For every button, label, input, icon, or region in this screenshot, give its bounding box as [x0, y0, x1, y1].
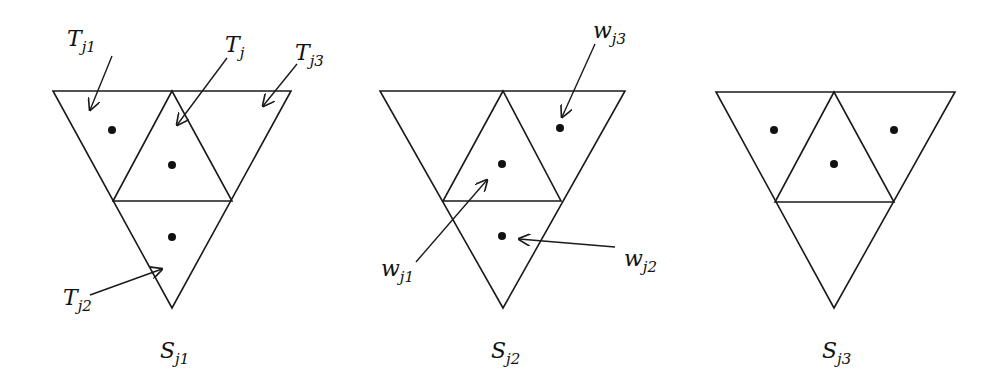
panel-s-j3: Sj3: [716, 92, 955, 368]
outer-triangle: [716, 92, 955, 308]
arrow-tj2: [90, 269, 162, 295]
dot-tj: [168, 161, 176, 169]
caption-s-j1: Sj1: [160, 338, 189, 368]
label-wj3: wj3: [593, 18, 626, 48]
dot-center: [498, 160, 506, 168]
label-tj: Tj: [225, 32, 245, 62]
label-tj3: Tj3: [295, 40, 324, 70]
inner-triangle: [443, 91, 561, 201]
arrow-wj2: [519, 239, 615, 247]
dot-center: [830, 160, 838, 168]
label-wj1: wj1: [381, 256, 414, 286]
arrow-wj3: [562, 44, 595, 117]
label-tj1: Tj1: [67, 26, 96, 56]
dot-right: [890, 126, 898, 134]
dot-tj2: [168, 233, 176, 241]
inner-triangle-tj: [113, 91, 232, 201]
outer-triangle: [380, 91, 625, 308]
panel-s-j2: wj3 wj1 wj2 Sj2: [380, 18, 657, 368]
dot-wj3: [556, 124, 564, 132]
arrow-wj1: [416, 180, 487, 262]
caption-s-j3: Sj3: [822, 338, 851, 368]
arrow-tj3: [263, 64, 297, 106]
dot-lower: [498, 232, 506, 240]
diagram-canvas: Tj1 Tj Tj3 Tj2 Sj1 wj3 wj1 wj2 Sj2 Sj3: [0, 0, 1002, 379]
label-tj2: Tj2: [63, 285, 92, 315]
inner-triangle: [775, 92, 894, 202]
dot-tj1: [108, 126, 116, 134]
arrow-tj1: [90, 56, 112, 110]
label-wj2: wj2: [624, 246, 657, 276]
dot-left: [770, 126, 778, 134]
outer-triangle: [53, 91, 291, 308]
caption-s-j2: Sj2: [491, 338, 520, 368]
panel-s-j1: Tj1 Tj Tj3 Tj2 Sj1: [53, 26, 324, 368]
